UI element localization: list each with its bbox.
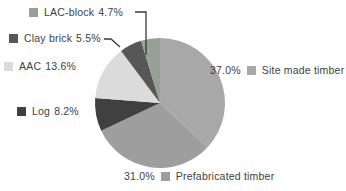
legend-item-prefabricated-timber: 31.0% Prefabricated timber [124,170,274,183]
legend-item-lac-block: LAC-block 4.7% [29,6,123,19]
legend-item-aac: AAC 13.6% [4,60,76,73]
aac-percent: 13.6% [45,60,76,73]
lac-block-label: LAC-block [44,6,94,19]
legend-item-site-made-timber: 37.0% Site made timber [210,64,344,77]
pie-chart-figure: LAC-block 4.7% Clay brick 5.5% AAC 13.6%… [0,0,346,191]
clay-brick-swatch-icon [9,34,18,43]
clay-brick-label: Clay brick [24,32,72,45]
site-made-timber-label: Site made timber [262,64,345,77]
lac-block-swatch-icon [29,8,38,17]
site-made-timber-percent: 37.0% [210,64,241,77]
clay-brick-percent: 5.5% [76,32,101,45]
prefabricated-timber-percent: 31.0% [124,170,155,183]
legend-item-log: Log 8.2% [17,105,79,118]
pie-chart-svg [0,0,346,191]
prefabricated-timber-swatch-icon [161,172,170,181]
log-label: Log [32,105,50,118]
log-swatch-icon [17,107,26,116]
clay-brick-leader-line [104,39,120,47]
prefabricated-timber-label: Prefabricated timber [176,170,275,183]
aac-label: AAC [19,60,41,73]
pie-slices-group [95,38,225,168]
legend-item-clay-brick: Clay brick 5.5% [9,32,101,45]
site-made-timber-swatch-icon [247,66,256,75]
log-percent: 8.2% [54,105,79,118]
lac-block-percent: 4.7% [98,6,123,19]
aac-swatch-icon [4,62,13,71]
